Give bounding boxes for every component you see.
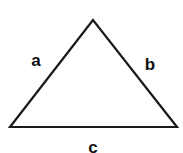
side-label-a: a <box>31 51 41 70</box>
side-label-c: c <box>88 138 97 153</box>
triangle-diagram: a b c <box>0 0 183 153</box>
side-label-b: b <box>145 55 155 74</box>
